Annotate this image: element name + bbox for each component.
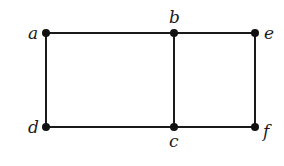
vertex-d — [42, 123, 50, 131]
vertex-c — [170, 123, 178, 131]
vertex-label-a: a — [28, 23, 38, 43]
vertex-label-e: e — [264, 23, 274, 43]
vertex-label-c: c — [169, 131, 179, 151]
vertex-label-b: b — [169, 7, 180, 27]
labels: abedcf — [28, 7, 274, 151]
vertex-a — [42, 29, 50, 37]
vertex-label-f: f — [261, 121, 272, 141]
vertex-f — [251, 123, 259, 131]
vertex-e — [251, 29, 259, 37]
nodes — [42, 29, 259, 131]
edges — [46, 33, 255, 127]
vertex-label-d: d — [28, 117, 39, 137]
graph-diagram: abedcf — [0, 0, 284, 166]
vertex-b — [170, 29, 178, 37]
